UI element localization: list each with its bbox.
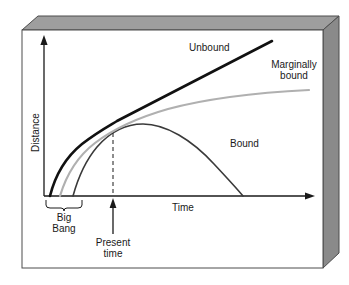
curve-label-bound: Bound [230, 138, 259, 149]
big-bang-label-line1: Big [38, 212, 90, 223]
figure-canvas [0, 0, 349, 285]
big-bang-label-line2: Bang [38, 223, 90, 234]
x-axis-label: Time [172, 202, 194, 213]
cosmology-expansion-figure: Distance Time Unbound Marginally bound B… [0, 0, 349, 285]
curve-label-marginally-bound-line2: bound [258, 70, 330, 81]
y-axis-label: Distance [30, 113, 41, 152]
present-time-label-line2: time [81, 248, 145, 259]
present-time-label-line1: Present [81, 237, 145, 248]
curve-label-marginally-bound-line1: Marginally [258, 59, 330, 70]
frame-right-bevel [323, 16, 339, 268]
curve-label-unbound: Unbound [189, 42, 230, 53]
frame-top-bevel [22, 16, 339, 30]
